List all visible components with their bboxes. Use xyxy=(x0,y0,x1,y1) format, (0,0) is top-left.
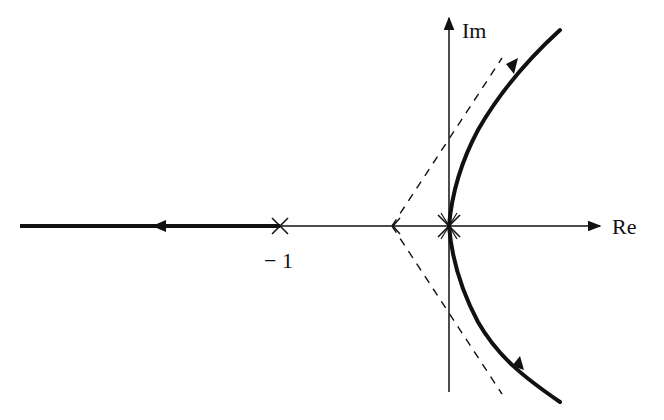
lower-branch xyxy=(449,226,560,402)
root-locus-diagram: Re Im − 1 xyxy=(0,0,664,420)
pole-label-minus-one: − 1 xyxy=(264,248,293,273)
real-axis-label: Re xyxy=(612,214,636,239)
lower-asymptote xyxy=(392,226,502,394)
left-arrow-icon xyxy=(152,220,166,232)
upper-asymptote xyxy=(392,58,502,226)
imag-axis-label: Im xyxy=(462,18,486,43)
real-axis-branch xyxy=(20,220,280,232)
upper-branch xyxy=(449,30,560,226)
up-arrow-icon xyxy=(506,58,518,74)
